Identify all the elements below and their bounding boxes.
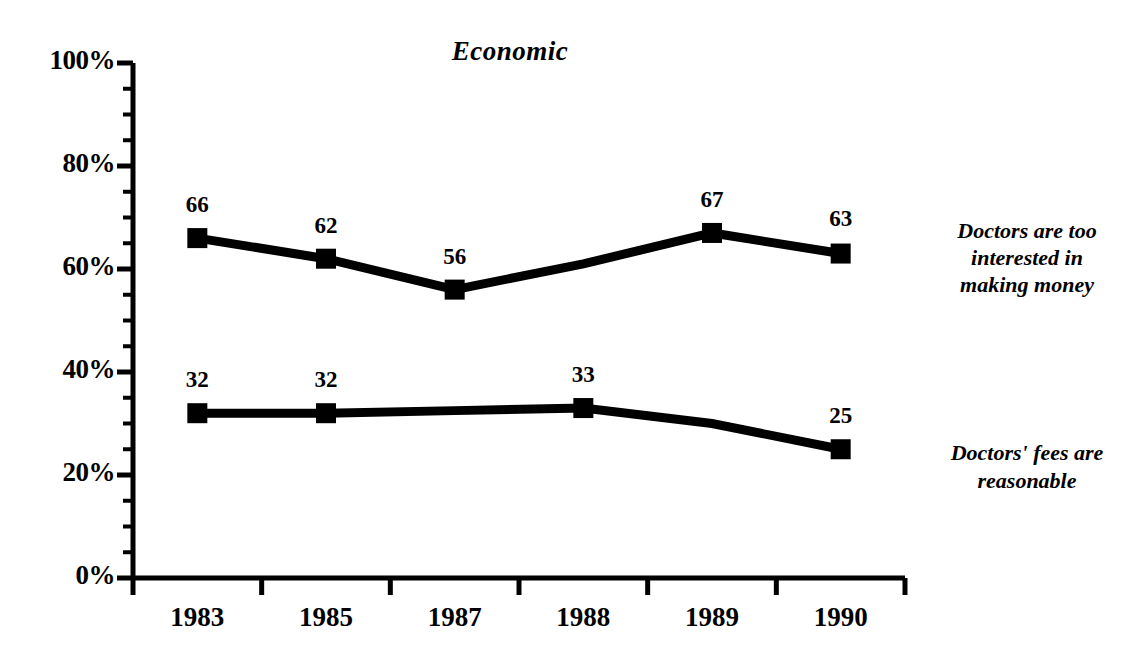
- x-tick-label-1989: 1989: [647, 602, 777, 633]
- axes: [117, 63, 905, 595]
- series-label-money-line3: making money: [917, 271, 1137, 298]
- series-line-money: [197, 233, 840, 290]
- x-tick-label-1988: 1988: [518, 602, 648, 633]
- y-tick-label-20: 20%: [5, 457, 115, 488]
- series-label-fees-line2: reasonable: [917, 467, 1137, 494]
- data-label-fees-1983: 32: [167, 367, 227, 393]
- x-tick-label-1983: 1983: [132, 602, 262, 633]
- y-tick-label-80: 80%: [5, 148, 115, 179]
- series-line-fees: [197, 408, 840, 449]
- series-label-fees-line1: Doctors' fees are: [917, 439, 1137, 466]
- marker-money-1985: [316, 249, 336, 269]
- x-tick-label-1990: 1990: [776, 602, 906, 633]
- data-label-money-1983: 66: [167, 192, 227, 218]
- series-label-fees: Doctors' fees are reasonable: [917, 439, 1137, 494]
- marker-fees-1990: [831, 439, 851, 459]
- y-tick-label-60: 60%: [5, 251, 115, 282]
- data-label-money-1990: 63: [811, 206, 871, 232]
- data-label-fees-1990: 25: [811, 403, 871, 429]
- data-label-fees-1985: 32: [296, 367, 356, 393]
- y-tick-label-0: 0%: [5, 560, 115, 591]
- data-label-money-1987: 56: [425, 244, 485, 270]
- x-tick-label-1985: 1985: [261, 602, 391, 633]
- marker-money-1983: [187, 228, 207, 248]
- marker-fees-1988: [573, 398, 593, 418]
- y-tick-label-100: 100%: [5, 45, 115, 76]
- data-series: [187, 223, 850, 459]
- series-label-money-line2: interested in: [917, 244, 1137, 271]
- series-label-money: Doctors are too interested in making mon…: [917, 217, 1137, 299]
- data-label-money-1989: 67: [682, 187, 742, 213]
- x-tick-label-1987: 1987: [390, 602, 520, 633]
- y-tick-label-40: 40%: [5, 354, 115, 385]
- data-label-fees-1988: 33: [553, 362, 613, 388]
- data-label-money-1985: 62: [296, 213, 356, 239]
- chart-plot-area: [0, 0, 1144, 653]
- marker-money-1990: [831, 244, 851, 264]
- marker-fees-1983: [187, 403, 207, 423]
- series-label-money-line1: Doctors are too: [917, 217, 1137, 244]
- chart-container: Economic 100% 80% 60% 40% 20% 0% 1983 19…: [0, 0, 1144, 653]
- marker-fees-1985: [316, 403, 336, 423]
- marker-money-1987: [445, 280, 465, 300]
- marker-money-1989: [702, 223, 722, 243]
